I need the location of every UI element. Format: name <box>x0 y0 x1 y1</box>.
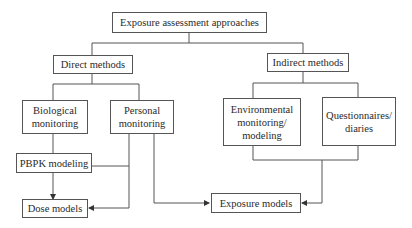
node-indirect-methods: Indirect methods <box>267 53 349 72</box>
node-pbpk-modeling: PBPK modeling <box>16 153 92 173</box>
node-personal-monitoring: Personal monitoring <box>110 100 174 134</box>
node-exposure-models: Exposure models <box>211 193 301 213</box>
node-exposure-assessment-approaches: Exposure assessment approaches <box>112 12 267 33</box>
node-biological-monitoring: Biological monitoring <box>22 100 88 134</box>
node-environmental-monitoring-modeling: Environmental monitoring/ modeling <box>223 98 301 146</box>
node-dose-models: Dose models <box>22 199 88 218</box>
node-direct-methods: Direct methods <box>53 55 133 74</box>
node-questionnaires-diaries: Questionnaires/ diaries <box>322 97 396 146</box>
